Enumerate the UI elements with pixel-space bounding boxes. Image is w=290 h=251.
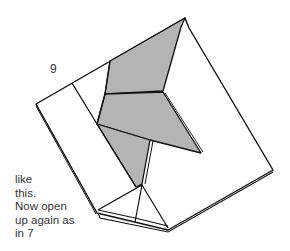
instruction-caption: like this. Now open up again as in 7	[15, 173, 74, 241]
caption-line: Now open	[15, 200, 74, 214]
step-number-label: 9	[50, 62, 57, 76]
caption-line: like	[15, 173, 74, 187]
origami-step-diagram: 9 like this. Now open up again as in 7	[0, 0, 290, 251]
caption-line: this.	[15, 187, 74, 201]
caption-line: in 7	[15, 227, 74, 241]
caption-line: up again as	[15, 214, 74, 228]
